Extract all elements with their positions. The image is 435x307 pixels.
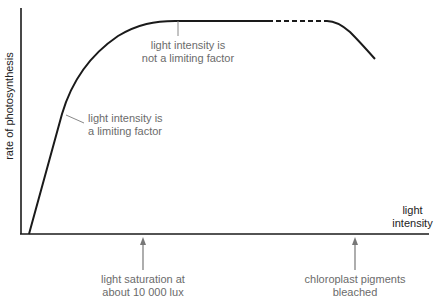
y-axis-label: rate of photosynthesis <box>3 51 15 161</box>
annotation-not-limiting: light intensity is not a limiting factor <box>138 39 238 65</box>
curve-decline <box>327 21 375 59</box>
arrow-up-icon <box>352 237 358 270</box>
leader-limiting <box>66 115 84 123</box>
annotation-limiting: light intensity is a limiting factor <box>88 112 163 138</box>
arrow-up-icon <box>140 237 146 270</box>
x-axis-label: light intensity <box>390 204 435 230</box>
annotation-bleached: chloroplast pigments bleached <box>300 273 410 299</box>
annotation-saturation: light saturation at about 10 000 lux <box>93 273 193 299</box>
